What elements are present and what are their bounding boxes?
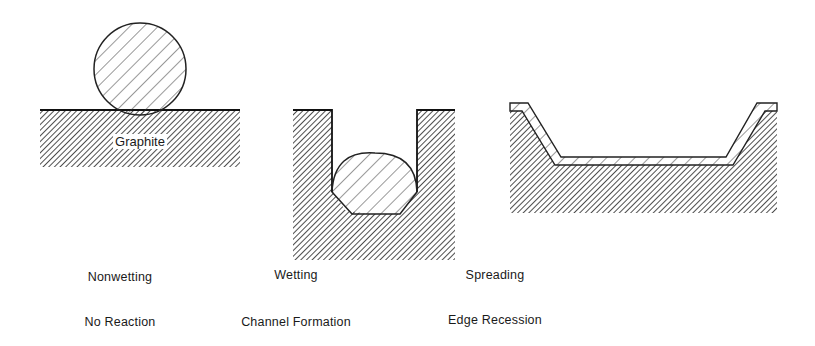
droplet-in-channel xyxy=(332,153,417,214)
no-reaction-label: No Reaction xyxy=(85,315,156,329)
droplet xyxy=(94,23,186,115)
wetting-behavior-diagram xyxy=(0,0,815,346)
spreading-label: Spreading xyxy=(466,268,525,282)
wetting-label: Wetting xyxy=(274,268,318,282)
channel-formation-label: Channel Formation xyxy=(241,315,351,329)
wetting-panel xyxy=(293,110,455,260)
nonwetting-label: Nonwetting xyxy=(88,270,153,284)
spreading-film xyxy=(510,103,777,165)
edge-recession-label: Edge Recession xyxy=(448,313,542,327)
spreading-panel xyxy=(510,103,777,213)
graphite-label: Graphite xyxy=(113,134,167,149)
